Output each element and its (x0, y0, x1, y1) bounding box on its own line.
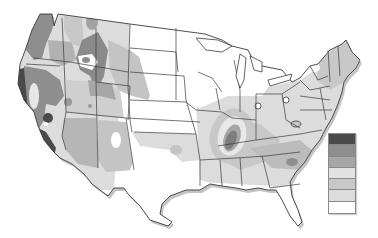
zone-oh-spot (283, 97, 289, 103)
zone-ok-spot (170, 145, 182, 155)
legend-swatch-level-1 (329, 202, 355, 213)
zone-colorado-spot (88, 104, 92, 108)
legend-swatch-level-2 (329, 190, 355, 201)
zone-ca-spot (43, 113, 53, 123)
zone-nevada-light (29, 83, 39, 109)
legend-swatch-level-4 (329, 168, 355, 179)
zone-yellowstone-core (82, 57, 90, 63)
map-figure: Contiguous United States shaded contour … (0, 0, 378, 238)
map-legend (328, 133, 356, 214)
zone-carolina-dark (286, 158, 298, 166)
zone-nm-spot (111, 132, 121, 148)
legend-swatch-level-5 (329, 157, 355, 168)
us-contour-map (0, 0, 378, 238)
legend-swatch-level-7 (329, 134, 355, 145)
zone-montana-spot (86, 14, 98, 30)
zone-ca-white-spot (44, 122, 48, 126)
legend-swatch-level-6 (329, 145, 355, 156)
legend-swatch-level-3 (329, 179, 355, 190)
